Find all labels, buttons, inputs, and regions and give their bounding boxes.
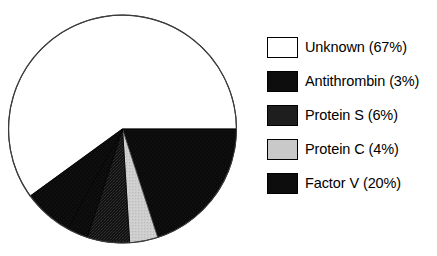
legend-item-protein-s: Protein S (6%) — [267, 104, 437, 126]
legend-item-label: Unknown (67%) — [305, 40, 407, 55]
legend-swatch-icon-factor-v — [267, 173, 298, 194]
pie-chart-figure — [0, 0, 250, 256]
legend-item-label: Factor V (20%) — [305, 176, 401, 191]
legend-item-protein-c: Protein C (4%) — [267, 138, 437, 160]
legend-item-label: Protein S (6%) — [305, 108, 398, 123]
legend-item-antithrombin: Antithrombin (3%) — [267, 70, 437, 92]
legend-swatch-icon-protein-c — [267, 139, 298, 160]
legend-swatch-icon-antithrombin — [267, 71, 298, 92]
legend-item-label: Antithrombin (3%) — [305, 74, 419, 89]
legend-swatch-icon-protein-s — [267, 105, 298, 126]
legend-swatch-icon-unknown — [267, 37, 298, 58]
pie-chart-svg — [0, 0, 250, 256]
legend-item-label: Protein C (4%) — [305, 142, 399, 157]
chart-legend: Unknown (67%) Antithrombin (3%) Protein … — [267, 36, 437, 194]
legend-item-unknown: Unknown (67%) — [267, 36, 437, 58]
legend-item-factor-v: Factor V (20%) — [267, 172, 437, 194]
